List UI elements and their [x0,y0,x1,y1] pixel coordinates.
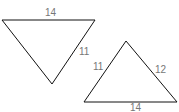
side-label-top: 14 [45,7,57,18]
side-label-right: 12 [155,64,167,75]
side-label-left: 11 [93,61,104,72]
side-label-right: 11 [79,46,90,57]
triangles-diagram: 14 11 11 12 14 [0,0,179,112]
side-label-bottom: 14 [130,102,142,112]
